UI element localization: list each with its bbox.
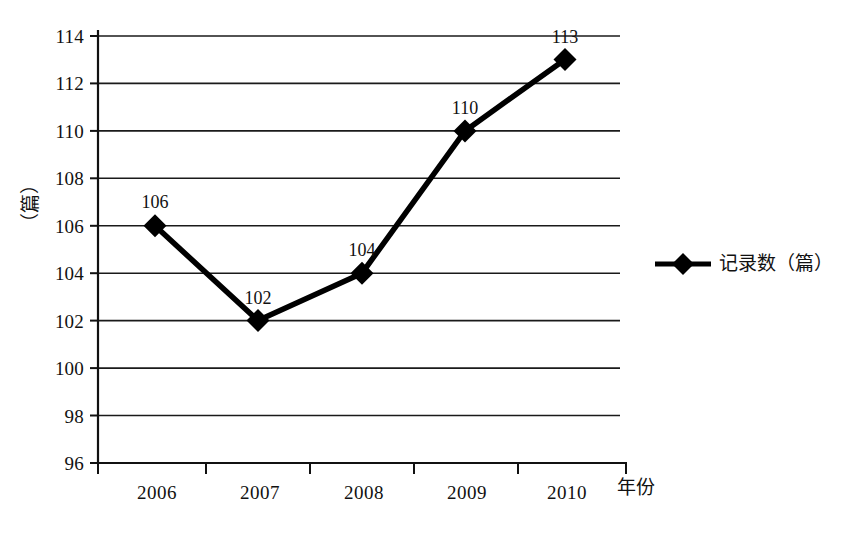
data-point-label: 106 — [120, 193, 190, 211]
legend-entry-label: 记录数（篇） — [719, 253, 833, 273]
y-axis-title: （篇） — [20, 175, 40, 232]
y-axis-tick-label: 96 — [36, 454, 84, 473]
x-axis-tick-label: 2010 — [522, 483, 612, 502]
x-axis-tick-label: 2007 — [215, 483, 305, 502]
x-axis-tick-label: 2009 — [422, 483, 512, 502]
y-axis-tick-label: 102 — [36, 312, 84, 331]
legend-marker — [655, 253, 711, 275]
x-axis-tick-label: 2008 — [319, 483, 409, 502]
data-point-label: 110 — [430, 99, 500, 117]
y-axis-tick-label: 104 — [36, 264, 84, 283]
y-axis-ticks — [90, 36, 98, 463]
x-axis-title: 年份 — [617, 477, 655, 497]
y-axis-tick-label: 100 — [36, 359, 84, 378]
x-axis-ticks — [98, 463, 626, 474]
data-point-label: 113 — [530, 28, 600, 46]
y-axis-tick-label: 110 — [36, 122, 84, 141]
y-axis-tick-label: 108 — [36, 169, 84, 188]
line-chart: 114 112 110 108 106 104 102 100 98 96 （篇… — [0, 0, 841, 538]
chart-canvas — [0, 0, 841, 538]
data-point-label: 102 — [223, 289, 293, 307]
y-axis-tick-label: 114 — [36, 27, 84, 46]
x-axis-tick-label: 2006 — [112, 483, 202, 502]
y-axis-tick-label: 106 — [36, 217, 84, 236]
y-axis-tick-label: 98 — [36, 407, 84, 426]
data-point-label: 104 — [327, 241, 397, 259]
y-axis-tick-label: 112 — [36, 74, 84, 93]
